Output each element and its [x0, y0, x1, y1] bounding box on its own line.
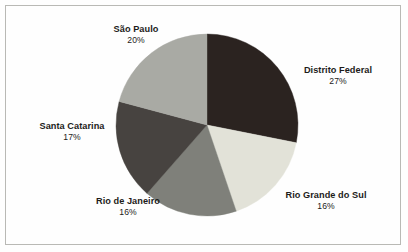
- pie-label-rio-grande-do-sul-value: 16%: [258, 201, 394, 211]
- chart-page: São Paulo 20% Distrito Federal 27% Santa…: [0, 0, 408, 252]
- pie-slice-group: [116, 34, 298, 216]
- pie-label-santa-catarina-value: 17%: [14, 132, 130, 142]
- pie-label-rio-de-janeiro: Rio de Janeiro 16%: [68, 196, 188, 217]
- pie-label-sao-paulo-value: 20%: [86, 35, 186, 45]
- pie-label-distrito-federal: Distrito Federal 27%: [277, 65, 399, 86]
- pie-slice: [207, 34, 298, 143]
- pie-label-santa-catarina: Santa Catarina 17%: [14, 121, 130, 142]
- pie-label-rio-grande-do-sul: Rio Grande do Sul 16%: [258, 190, 394, 211]
- pie-label-distrito-federal-name: Distrito Federal: [277, 65, 399, 76]
- pie-label-rio-de-janeiro-name: Rio de Janeiro: [68, 196, 188, 207]
- pie-label-distrito-federal-value: 27%: [277, 76, 399, 86]
- pie-label-sao-paulo-name: São Paulo: [86, 24, 186, 35]
- pie-label-rio-de-janeiro-value: 16%: [68, 207, 188, 217]
- pie-label-rio-grande-do-sul-name: Rio Grande do Sul: [258, 190, 394, 201]
- pie-label-santa-catarina-name: Santa Catarina: [14, 121, 130, 132]
- pie-label-sao-paulo: São Paulo 20%: [86, 24, 186, 45]
